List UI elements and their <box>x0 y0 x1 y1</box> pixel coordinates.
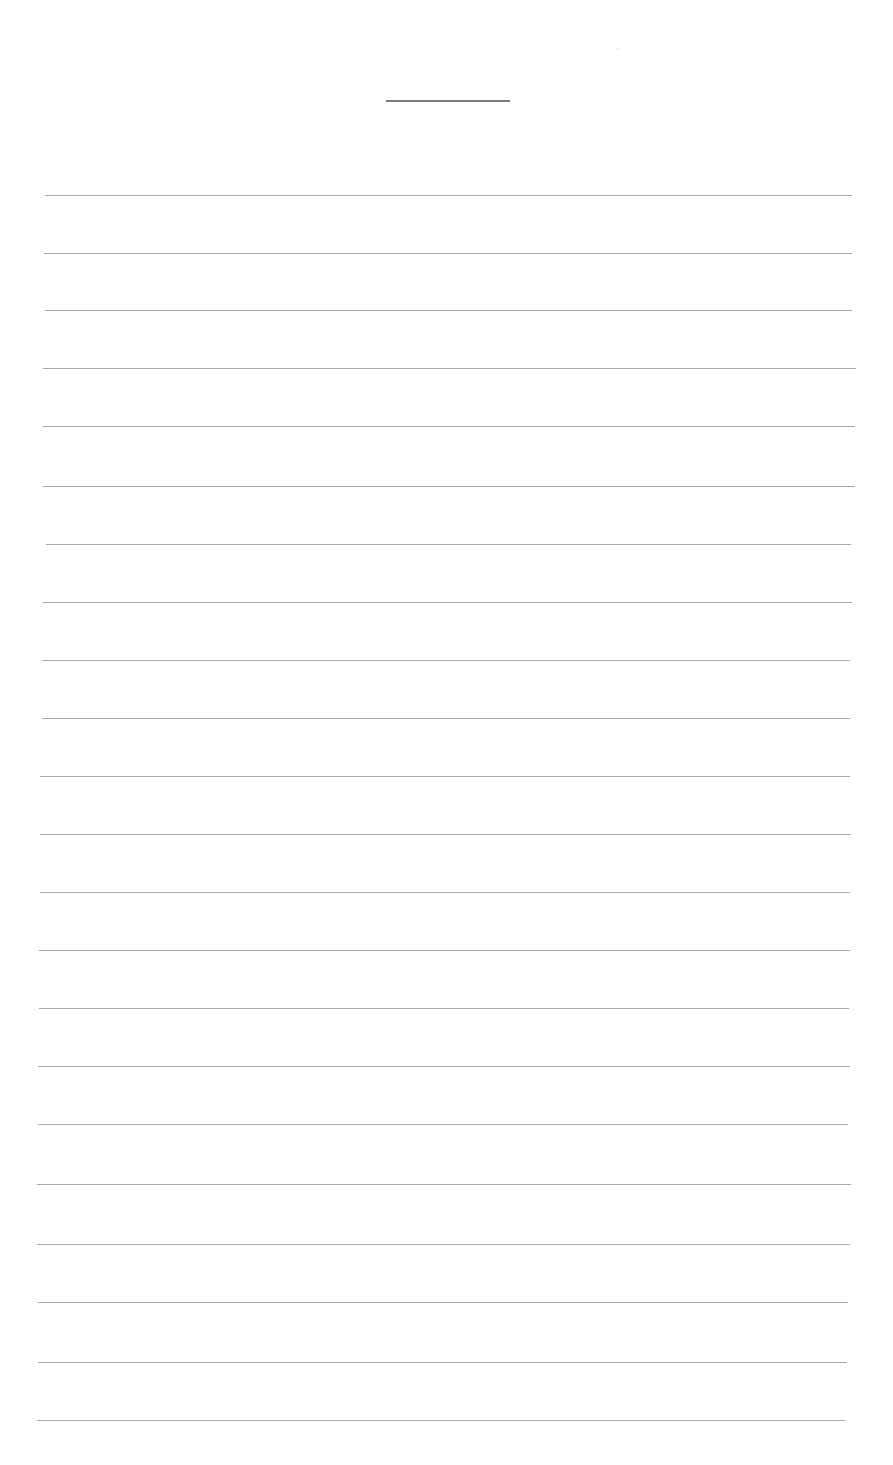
ruled-line <box>40 834 851 835</box>
ruled-line <box>37 1184 851 1185</box>
ruled-line <box>44 253 852 254</box>
ruled-line <box>43 426 855 427</box>
ruled-line <box>38 1302 848 1303</box>
ruled-line <box>38 1124 848 1125</box>
ruled-line <box>43 368 856 369</box>
ruled-line <box>40 892 850 893</box>
ruled-line <box>39 1008 849 1009</box>
ruled-line <box>43 602 852 603</box>
ruled-line <box>46 544 851 545</box>
title-line <box>386 100 510 102</box>
ruled-line <box>45 310 852 311</box>
ruled-line <box>43 486 855 487</box>
ruled-line <box>42 660 850 661</box>
ruled-line <box>38 1362 847 1363</box>
ruled-line <box>42 718 850 719</box>
ruled-line <box>45 195 852 196</box>
ruled-line <box>37 1244 850 1245</box>
ruled-line <box>39 950 850 951</box>
ruled-line <box>40 776 850 777</box>
ruled-line <box>38 1066 850 1067</box>
ruled-line <box>37 1420 845 1421</box>
scan-speck <box>617 48 618 49</box>
